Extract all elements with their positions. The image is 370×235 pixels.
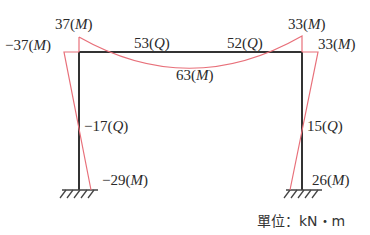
label-right-column-shear: 15(Q) [307, 119, 343, 134]
label-beam-right-shear: 52(Q) [227, 36, 263, 51]
label-left-column-shear: −17(Q) [84, 119, 128, 134]
label-left-base-moment: −29(M) [102, 173, 148, 188]
moment-diagram [64, 36, 318, 190]
label-left-side-moment: −37(M) [5, 38, 51, 53]
label-right-top-moment: 33(M) [288, 17, 326, 32]
label-beam-mid-moment: 63(M) [176, 68, 214, 83]
label-right-base-moment: 26(M) [312, 173, 350, 188]
label-left-top-moment: 37(M) [55, 17, 93, 32]
left-fixed-support-icon [60, 190, 98, 198]
label-beam-left-shear: 53(Q) [134, 36, 170, 51]
unit-label: 單位：kN・m [257, 214, 345, 228]
label-right-side-moment: 33(M) [318, 37, 356, 52]
right-fixed-support-icon [284, 190, 322, 198]
